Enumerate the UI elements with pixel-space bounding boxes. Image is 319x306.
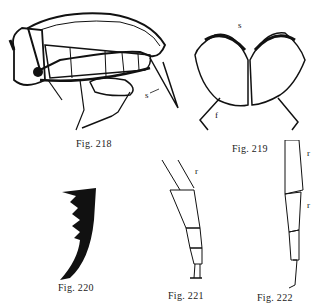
leg-illustration-icon	[150, 160, 230, 306]
label-r: r	[307, 200, 310, 210]
figure-219: s f Fig. 219	[180, 0, 319, 160]
wing-covers-illustration-icon	[180, 0, 319, 160]
leg-illustration-icon	[255, 140, 319, 306]
figure-221: r Fig. 221	[150, 160, 230, 306]
figure-222: r r Fig. 222	[255, 140, 319, 306]
label-r: r	[195, 166, 198, 176]
label-s: s	[145, 90, 149, 100]
label-r: r	[307, 148, 310, 158]
figure-caption: Fig. 222	[257, 292, 293, 303]
insect-illustration-icon	[0, 0, 190, 160]
figure-caption: Fig. 221	[168, 290, 204, 301]
figure-218: s Fig. 218	[0, 0, 190, 160]
figure-caption: Fig. 220	[58, 282, 94, 293]
label-f: f	[215, 110, 218, 120]
label-s: s	[238, 20, 242, 30]
figure-caption: Fig. 218	[76, 138, 112, 149]
figure-220: Fig. 220	[0, 160, 150, 306]
